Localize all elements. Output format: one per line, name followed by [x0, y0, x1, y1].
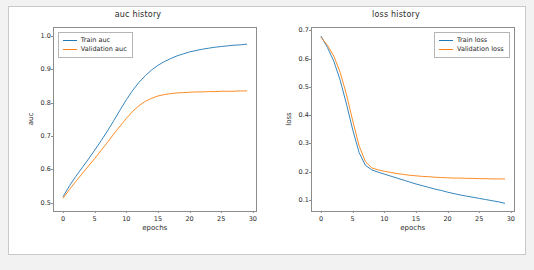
- y-tick-label: 0.3: [299, 139, 309, 147]
- series-line: [63, 44, 246, 196]
- y-tick-label: 0.8: [41, 99, 51, 107]
- series-line: [321, 37, 504, 178]
- legend-line-icon: [439, 49, 453, 50]
- legend-line-icon: [63, 49, 77, 50]
- legend-item[interactable]: Validation loss: [439, 45, 504, 54]
- x-tick-label: 30: [507, 215, 515, 223]
- legend-line-icon: [439, 40, 453, 41]
- y-tick-label: 0.6: [299, 55, 309, 63]
- y-tick-label: 0.5: [41, 199, 51, 207]
- y-tick-label: 0.2: [299, 168, 309, 176]
- chart-title-loss: loss history: [267, 10, 525, 19]
- x-tick-label: 30: [249, 215, 257, 223]
- legend-auc: Train aucValidation auc: [58, 32, 133, 58]
- x-tick-label: 5: [351, 215, 355, 223]
- x-tick-label: 15: [154, 215, 162, 223]
- panel-loss-history: loss history loss epochs Train lossValid…: [267, 7, 525, 254]
- y-tick-label: 0.7: [299, 26, 309, 34]
- legend-item-label: Validation auc: [81, 45, 127, 53]
- y-tick-label: 0.4: [299, 111, 309, 119]
- y-tick-label: 0.5: [299, 83, 309, 91]
- plot-area-auc: auc epochs Train aucValidation auc 0.50.…: [53, 27, 257, 212]
- series-line: [63, 91, 246, 198]
- x-tick-label: 25: [475, 215, 483, 223]
- y-tick-label: 0.1: [299, 196, 309, 204]
- y-tick-label: 1.0: [41, 32, 51, 40]
- y-tick-label: 0.9: [41, 65, 51, 73]
- legend-item[interactable]: Validation auc: [63, 45, 127, 54]
- legend-item[interactable]: Train auc: [63, 36, 127, 45]
- y-tick-label: 0.6: [41, 165, 51, 173]
- legend-loss: Train lossValidation loss: [434, 32, 510, 58]
- x-axis-label-loss: epochs: [312, 224, 514, 232]
- y-axis-label-loss: loss: [285, 113, 293, 127]
- legend-item[interactable]: Train loss: [439, 36, 504, 45]
- panel-auc-history: auc history auc epochs Train aucValidati…: [9, 7, 267, 254]
- legend-item-label: Validation loss: [457, 45, 504, 53]
- x-tick-label: 0: [319, 215, 323, 223]
- legend-line-icon: [63, 40, 77, 41]
- plot-area-loss: loss epochs Train lossValidation loss 0.…: [311, 27, 515, 212]
- x-tick-label: 20: [185, 215, 193, 223]
- x-axis-label-auc: epochs: [54, 224, 256, 232]
- y-axis-label-auc: auc: [28, 113, 36, 126]
- chart-title-auc: auc history: [9, 10, 267, 19]
- x-tick-label: 5: [93, 215, 97, 223]
- x-tick-label: 0: [61, 215, 65, 223]
- y-tick-label: 0.7: [41, 132, 51, 140]
- x-tick-label: 10: [122, 215, 130, 223]
- screenshot-root: auc history auc epochs Train aucValidati…: [0, 0, 534, 270]
- legend-item-label: Train auc: [81, 36, 110, 44]
- x-tick-label: 15: [412, 215, 420, 223]
- x-tick-label: 10: [380, 215, 388, 223]
- x-tick-label: 20: [443, 215, 451, 223]
- x-tick-label: 25: [217, 215, 225, 223]
- legend-item-label: Train loss: [457, 36, 487, 44]
- matplotlib-figure: auc history auc epochs Train aucValidati…: [8, 6, 526, 255]
